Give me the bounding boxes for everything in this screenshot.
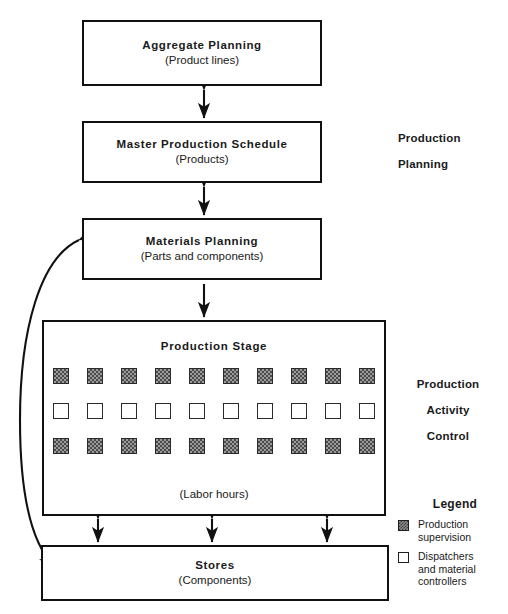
legend-item-dispatchers: Dispatchers and material controllers (398, 550, 502, 588)
box-production-stage-subtitle: (Labor hours) (44, 488, 384, 500)
box-materials-planning: Materials Planning (Parts and components… (82, 218, 322, 280)
box-aggregate-planning-subtitle: (Product lines) (165, 53, 239, 68)
square-production-supervision (291, 368, 307, 384)
legend-line: Dispatchers (418, 550, 473, 562)
label-production-activity-control-line-3: Control (398, 423, 498, 449)
stage-row-supervision-bottom (44, 438, 384, 454)
square-production-supervision (223, 438, 239, 454)
square-production-supervision (121, 368, 137, 384)
legend-item-dispatchers-text: Dispatchers and material controllers (418, 550, 476, 588)
legend-item-production-supervision-text: Production supervision (418, 518, 471, 543)
square-dispatcher (257, 403, 273, 419)
box-aggregate-planning: Aggregate Planning (Product lines) (82, 20, 322, 86)
legend-line: Production (418, 518, 468, 530)
legend-item-production-supervision: Production supervision (398, 518, 502, 543)
square-production-supervision (53, 438, 69, 454)
square-dispatcher (325, 403, 341, 419)
box-stores: Stores (Components) (41, 545, 389, 601)
legend-line: controllers (418, 575, 466, 587)
legend-swatch-open-icon (398, 552, 409, 563)
square-dispatcher (121, 403, 137, 419)
square-production-supervision (121, 438, 137, 454)
legend-line: and material (418, 563, 476, 575)
stage-row-dispatchers (44, 403, 384, 419)
diagram-canvas: Aggregate Planning (Product lines) Maste… (0, 0, 508, 614)
legend-title: Legend (412, 497, 498, 511)
square-production-supervision (189, 438, 205, 454)
stage-row-supervision-top (44, 368, 384, 384)
square-production-supervision (291, 438, 307, 454)
label-production-activity-control: Production Activity Control (398, 371, 498, 449)
square-dispatcher (291, 403, 307, 419)
label-production-activity-control-line-1: Production (398, 371, 498, 397)
box-aggregate-planning-title: Aggregate Planning (142, 38, 261, 53)
box-materials-planning-subtitle: (Parts and components) (141, 249, 264, 264)
square-production-supervision (325, 368, 341, 384)
square-production-supervision (87, 438, 103, 454)
box-materials-planning-title: Materials Planning (146, 234, 258, 249)
square-production-supervision (155, 438, 171, 454)
square-production-supervision (325, 438, 341, 454)
square-dispatcher (155, 403, 171, 419)
box-master-production-schedule: Master Production Schedule (Products) (82, 121, 322, 183)
box-master-production-schedule-title: Master Production Schedule (117, 137, 288, 152)
legend: Legend Production supervision Dispatcher… (398, 497, 502, 588)
label-production-planning: Production Planning (398, 125, 461, 177)
square-production-supervision (53, 368, 69, 384)
legend-line: supervision (418, 531, 471, 543)
square-production-supervision (189, 368, 205, 384)
square-production-supervision (257, 438, 273, 454)
box-master-production-schedule-subtitle: (Products) (175, 152, 228, 167)
box-production-stage-title: Production Stage (44, 340, 384, 352)
square-production-supervision (223, 368, 239, 384)
square-production-supervision (87, 368, 103, 384)
square-production-supervision (257, 368, 273, 384)
box-stores-title: Stores (195, 558, 234, 573)
square-production-supervision (359, 438, 375, 454)
square-dispatcher (189, 403, 205, 419)
label-production-planning-line-1: Production (398, 125, 461, 151)
square-production-supervision (359, 368, 375, 384)
legend-swatch-filled-icon (398, 520, 409, 531)
box-production-stage: Production Stage (42, 320, 386, 516)
square-dispatcher (223, 403, 239, 419)
square-dispatcher (87, 403, 103, 419)
square-production-supervision (155, 368, 171, 384)
label-production-planning-line-2: Planning (398, 151, 461, 177)
square-dispatcher (53, 403, 69, 419)
box-stores-subtitle: (Components) (179, 573, 252, 588)
label-production-activity-control-line-2: Activity (398, 397, 498, 423)
square-dispatcher (359, 403, 375, 419)
